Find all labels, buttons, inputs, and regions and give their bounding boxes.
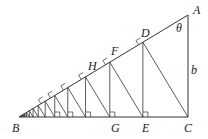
right-angle-mark — [143, 112, 148, 117]
right-angle-mark — [55, 112, 60, 117]
perpendicular-to-AB — [29, 111, 33, 117]
perpendicular-to-AB — [143, 42, 188, 117]
perpendicular-to-AB — [110, 62, 143, 117]
label-A: A — [193, 4, 200, 16]
label-H: H — [88, 60, 97, 72]
perpendicular-to-AB — [45, 101, 55, 117]
label-b: b — [191, 64, 197, 76]
label-theta: θ — [176, 22, 182, 34]
hypotenuse-AB — [19, 15, 188, 117]
perpendicular-to-AB — [55, 95, 68, 117]
right-angle-mark — [110, 112, 115, 117]
perpendicular-to-AB — [86, 77, 110, 117]
label-C: C — [184, 122, 192, 134]
label-B: B — [12, 122, 19, 134]
perpendicular-to-AB — [38, 105, 45, 117]
label-G: G — [111, 122, 120, 134]
diagram: A θ D F H b B G E C — [0, 0, 208, 139]
label-F: F — [111, 45, 118, 57]
perpendicular-to-AB — [68, 88, 86, 117]
right-angle-mark — [86, 112, 91, 117]
label-D: D — [141, 27, 150, 39]
perpendicular-to-AB — [27, 112, 30, 117]
label-E: E — [142, 122, 149, 134]
right-angle-mark — [68, 112, 73, 117]
perpendicular-to-AB — [33, 109, 38, 117]
